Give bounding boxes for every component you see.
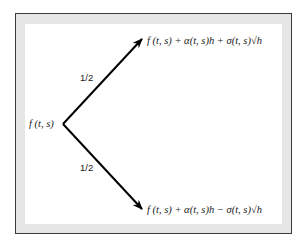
origin-node-label: f (t, s) (29, 119, 54, 130)
branch-up-probability: 1/2 (80, 73, 93, 83)
branch-up-arrow (63, 39, 142, 124)
down-node-label: f (t, s) + α(t, s)h − σ(t, s)√h (147, 205, 262, 216)
up-node-label: f (t, s) + α(t, s)h + σ(t, s)√h (147, 36, 262, 47)
branch-down-arrow (63, 124, 142, 209)
branch-down-probability: 1/2 (80, 163, 93, 173)
